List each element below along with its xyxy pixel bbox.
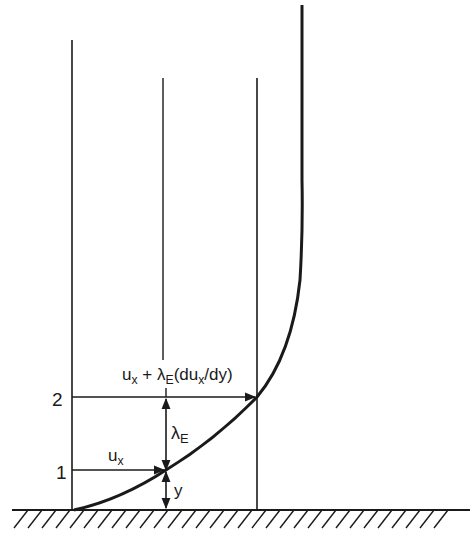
lambda-sub: E (180, 431, 189, 446)
formula-lambda-sub: E (165, 373, 173, 387)
y-label: y (174, 482, 183, 499)
diagram-canvas (0, 0, 475, 544)
level-2-label: 2 (52, 390, 63, 409)
lambda-symbol: λ (171, 423, 180, 443)
mixing-length-label: λE (171, 424, 189, 446)
formula-du: (du (174, 365, 199, 384)
ux-sub: x (117, 454, 123, 468)
formula-dy: /dy) (204, 365, 232, 384)
formula-plus: + (138, 365, 157, 384)
level-1-label: 1 (56, 463, 67, 482)
ux-label: ux (108, 447, 124, 467)
wall-surface (12, 510, 470, 528)
formula-label: ux + λE(dux/dy) (122, 366, 233, 386)
